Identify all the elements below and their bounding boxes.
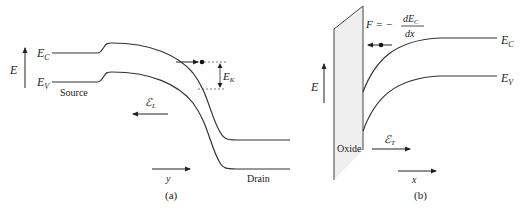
panel-b-caption: (b) — [414, 189, 427, 202]
valence-band-curve-b — [363, 76, 497, 131]
force-equation-numerator: dEC — [403, 13, 419, 26]
electron-dot-icon — [200, 60, 205, 65]
x-axis-label: x — [411, 174, 417, 185]
oxide-label: Oxide — [337, 143, 362, 154]
ec-label: EC — [36, 46, 50, 62]
electron-dot-icon-b — [379, 43, 384, 48]
ek-label: EK — [222, 70, 235, 84]
drain-label: Drain — [247, 173, 270, 184]
transverse-field-label: ℰT — [384, 133, 396, 147]
ec-label-b: EC — [500, 33, 514, 49]
ek-arrow-down-icon — [218, 83, 223, 88]
ek-arrow-up-icon — [218, 63, 223, 68]
conduction-band-curve-b — [363, 38, 497, 92]
panel-b: Oxide E F = − dEC dx EC EV ℰT x (b) — [310, 6, 514, 202]
y-axis-label: y — [165, 173, 171, 184]
ev-label-b: EV — [500, 71, 514, 87]
force-equation-denominator: dx — [405, 28, 415, 39]
panel-a-caption: (a) — [165, 189, 178, 202]
force-equation-lhs: F = − — [365, 18, 393, 30]
source-label: Source — [60, 87, 88, 98]
panel-a: E EC EV Source Drain EK ℰL y (a) — [9, 43, 290, 202]
ev-label: EV — [36, 75, 50, 91]
lateral-field-label: ℰL — [145, 96, 156, 110]
band-diagram-canvas: E EC EV Source Drain EK ℰL y (a) — [0, 0, 528, 211]
energy-axis-label: E — [9, 63, 18, 77]
energy-axis-label-b: E — [310, 80, 319, 94]
